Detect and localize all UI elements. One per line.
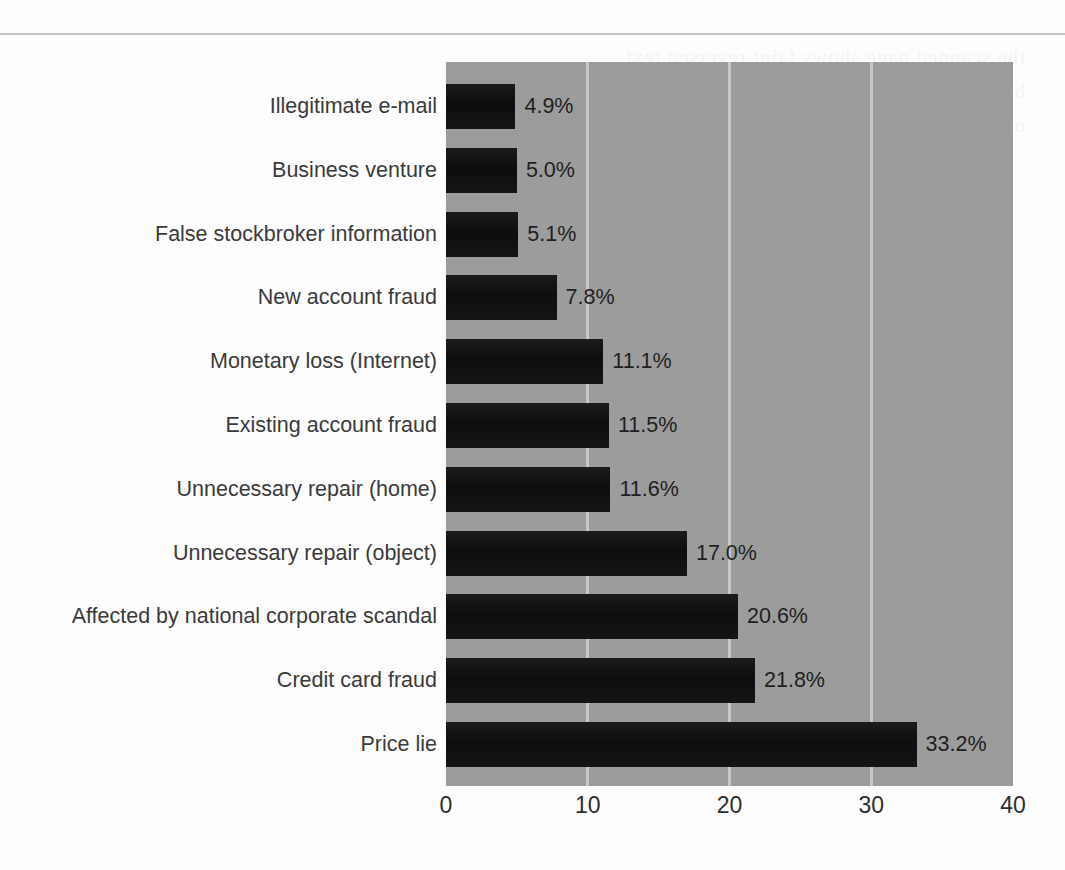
category-label: Illegitimate e-mail	[0, 84, 437, 129]
bar-value-label: 11.1%	[612, 339, 671, 384]
bar-row: New account fraud7.8%	[0, 275, 1065, 320]
x-tick-label: 40	[1000, 792, 1026, 819]
bar-row: Price lie33.2%	[0, 722, 1065, 767]
category-label: New account fraud	[0, 275, 437, 320]
bar	[446, 531, 687, 576]
bar-row: Business venture5.0%	[0, 148, 1065, 193]
category-label: False stockbroker information	[0, 212, 437, 257]
bar-row: Unnecessary repair (object)17.0%	[0, 531, 1065, 576]
bar-row: Affected by national corporate scandal20…	[0, 594, 1065, 639]
category-label: Unnecessary repair (object)	[0, 531, 437, 576]
bar-chart-figure: Illegitimate e-mail4.9%Business venture5…	[0, 0, 1065, 870]
category-label: Price lie	[0, 722, 437, 767]
bar-row: Unnecessary repair (home)11.6%	[0, 467, 1065, 512]
bar	[446, 148, 517, 193]
bar	[446, 467, 610, 512]
bar	[446, 403, 609, 448]
bar-value-label: 4.9%	[524, 84, 573, 129]
x-axis: 010203040	[0, 792, 1065, 832]
bar-row: Existing account fraud11.5%	[0, 403, 1065, 448]
bar	[446, 722, 917, 767]
bar	[446, 212, 518, 257]
category-label: Business venture	[0, 148, 437, 193]
bar-value-label: 20.6%	[747, 594, 808, 639]
category-label: Credit card fraud	[0, 658, 437, 703]
x-tick-label: 20	[717, 792, 743, 819]
bar-value-label: 11.5%	[618, 403, 677, 448]
bar-value-label: 33.2%	[926, 722, 987, 767]
bar-value-label: 17.0%	[696, 531, 757, 576]
bar	[446, 594, 738, 639]
bar-row: Credit card fraud21.8%	[0, 658, 1065, 703]
bar	[446, 339, 603, 384]
category-label: Unnecessary repair (home)	[0, 467, 437, 512]
category-label: Existing account fraud	[0, 403, 437, 448]
bar	[446, 84, 515, 129]
x-tick-label: 30	[858, 792, 884, 819]
bar-row: False stockbroker information5.1%	[0, 212, 1065, 257]
bar-row: Illegitimate e-mail4.9%	[0, 84, 1065, 129]
bar	[446, 658, 755, 703]
bar-value-label: 5.1%	[527, 212, 576, 257]
bar	[446, 275, 557, 320]
bar-value-label: 11.6%	[619, 467, 678, 512]
bar-row: Monetary loss (Internet)11.1%	[0, 339, 1065, 384]
x-tick-label: 0	[440, 792, 453, 819]
bar-value-label: 7.8%	[566, 275, 615, 320]
category-label: Monetary loss (Internet)	[0, 339, 437, 384]
x-tick-label: 10	[575, 792, 601, 819]
category-label: Affected by national corporate scandal	[0, 594, 437, 639]
bar-value-label: 21.8%	[764, 658, 825, 703]
bar-value-label: 5.0%	[526, 148, 575, 193]
